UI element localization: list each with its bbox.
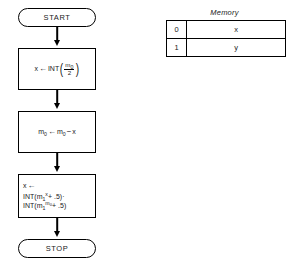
term-tail: + .5) — [52, 202, 66, 209]
stop-label: STOP — [46, 244, 69, 253]
start-label: START — [44, 13, 71, 22]
connector-arrow-4 — [18, 218, 96, 239]
process-box-update-m0: m0←m0−x — [18, 111, 96, 153]
connector-arrow-1 — [18, 27, 96, 48]
expression-compute-x: x←INT(m02) — [34, 62, 79, 76]
start-terminator: START — [18, 8, 96, 27]
assign-arrow-glyph: ← — [38, 64, 48, 73]
memory-value-cell: x — [187, 21, 286, 39]
table-row: 1 y — [167, 39, 286, 57]
memory-table-group: Memory 0 x 1 y — [166, 8, 283, 57]
int-function-name: INT — [23, 202, 34, 209]
arrow-head-icon — [54, 103, 60, 109]
expression-compute-x-power: x← INT(m1x+ .5)· INT(m1m0+ .5) — [19, 181, 66, 211]
flowchart: START x←INT(m02) m0←m0−x — [18, 8, 98, 258]
memory-table: 0 x 1 y — [166, 20, 286, 57]
fraction-denominator: 2 — [68, 70, 71, 77]
expression-line-3: INT(m1m0+ .5) — [23, 201, 66, 210]
memory-title: Memory — [166, 8, 283, 17]
process-box-compute-x: x←INT(m02) — [18, 48, 96, 90]
memory-address-cell: 1 — [167, 39, 187, 57]
memory-address-cell: 0 — [167, 21, 187, 39]
connector-arrow-2 — [18, 90, 96, 111]
fraction: m02 — [64, 62, 74, 76]
expression-update-m0: m0←m0−x — [38, 128, 76, 136]
arrow-head-icon — [54, 166, 60, 172]
rhs-variable: x — [72, 128, 76, 135]
assign-arrow-glyph: ← — [47, 127, 57, 136]
arrow-head-icon — [54, 231, 60, 237]
term-tail: + .5)· — [48, 193, 65, 200]
int-function-name: INT — [48, 65, 59, 72]
process-box-compute-x-power: x← INT(m1x+ .5)· INT(m1m0+ .5) — [18, 174, 96, 218]
assign-target: x — [23, 182, 27, 189]
connector-arrow-3 — [18, 153, 96, 174]
table-row: 0 x — [167, 21, 286, 39]
stop-terminator: STOP — [18, 239, 96, 258]
memory-value-cell: y — [187, 39, 286, 57]
assign-arrow-glyph: ← — [27, 181, 37, 190]
arrow-head-icon — [54, 40, 60, 46]
int-function-name: INT — [23, 193, 34, 200]
